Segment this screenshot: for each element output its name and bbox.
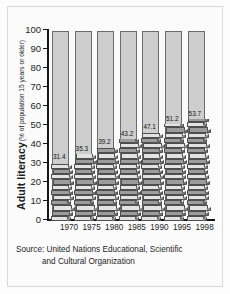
book: [51, 200, 68, 205]
book: [164, 174, 183, 179]
book: [187, 138, 204, 143]
book-stack: [164, 124, 189, 221]
book: [52, 211, 70, 216]
book: [98, 205, 117, 210]
book: [51, 216, 68, 221]
book: [76, 179, 94, 184]
book: [189, 179, 207, 184]
book: [166, 127, 185, 132]
x-tick-label: 1998: [190, 223, 220, 232]
book: [75, 159, 94, 164]
book: [142, 200, 159, 205]
book: [165, 133, 183, 138]
y-tick: [43, 29, 47, 30]
book: [52, 185, 69, 190]
book: [164, 124, 181, 128]
book: [120, 159, 139, 164]
book: [74, 190, 93, 195]
bar-value-label: 47.1: [143, 123, 155, 130]
book: [164, 164, 182, 169]
book-stack: [119, 139, 144, 221]
y-tick-label: 90: [30, 43, 41, 54]
source-line-1: Source: United Nations Educational, Scie…: [16, 244, 216, 256]
book: [120, 169, 137, 174]
book-stack: [51, 161, 76, 221]
book: [166, 143, 185, 148]
book: [142, 133, 160, 138]
book: [119, 216, 136, 221]
book: [143, 179, 161, 184]
y-tick: [43, 219, 47, 220]
book: [120, 143, 139, 148]
bar-value-label: 43.2: [121, 130, 133, 137]
book: [188, 159, 207, 164]
book: [97, 174, 116, 179]
book: [187, 122, 204, 127]
book: [166, 179, 184, 184]
book: [119, 148, 137, 153]
book: [53, 195, 71, 200]
book: [51, 174, 70, 179]
book: [119, 139, 136, 143]
book: [143, 143, 162, 148]
book: [121, 153, 138, 158]
book: [187, 190, 206, 195]
y-axis-subtitle: (% of population 15 years or older): [18, 40, 25, 141]
book: [120, 185, 137, 190]
book: [97, 148, 115, 153]
book: [187, 148, 205, 153]
book: [119, 190, 138, 195]
book-stack: [141, 132, 166, 221]
book: [188, 143, 207, 148]
book: [166, 169, 183, 174]
book: [188, 133, 206, 138]
book: [97, 211, 115, 216]
book: [119, 200, 136, 205]
bar-value-label: 31.4: [53, 153, 65, 160]
book: [75, 211, 93, 216]
y-tick-label: 50: [30, 119, 41, 130]
book: [121, 179, 139, 184]
book: [164, 216, 181, 221]
book: [53, 179, 71, 184]
book: [188, 195, 206, 200]
y-tick: [43, 181, 47, 182]
y-tick-label: 70: [30, 81, 41, 92]
book: [75, 185, 92, 190]
book: [143, 153, 160, 158]
y-tick: [43, 162, 47, 163]
y-tick-label: 20: [30, 176, 41, 187]
book: [141, 216, 158, 221]
book: [97, 185, 114, 190]
book: [75, 195, 93, 200]
book: [74, 216, 91, 221]
bar-value-label: 39.2: [98, 138, 110, 145]
bar-value-label: 51.2: [166, 115, 178, 122]
book: [96, 164, 114, 169]
book: [141, 164, 159, 169]
book: [53, 169, 70, 174]
book: [166, 153, 183, 158]
source-line-2: and Cultural Organization: [42, 256, 216, 268]
book: [142, 148, 160, 153]
y-tick: [43, 67, 47, 68]
y-axis-title: Adult literacy: [15, 142, 27, 210]
y-tick-label: 10: [30, 195, 41, 206]
y-tick: [43, 200, 47, 201]
bar-value-label: 53.7: [189, 110, 201, 117]
y-tick: [43, 143, 47, 144]
y-tick: [43, 86, 47, 87]
y-tick-label: 100: [25, 24, 41, 35]
book: [76, 154, 93, 159]
book: [142, 174, 161, 179]
y-axis-line: [47, 29, 49, 221]
chart-figure: Adult literacy (% of population 15 years…: [0, 0, 230, 294]
book: [188, 185, 205, 190]
book: [143, 205, 162, 210]
book: [188, 169, 205, 174]
book: [96, 216, 113, 221]
book: [75, 169, 92, 174]
book: [98, 153, 115, 158]
book: [166, 205, 185, 210]
book: [142, 211, 160, 216]
